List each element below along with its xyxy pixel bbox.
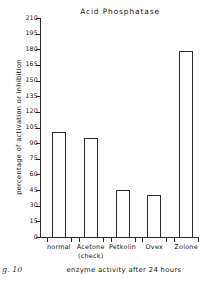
bar: [147, 195, 161, 237]
chart-title: Acid Phosphatase: [60, 7, 180, 16]
x-tick-mark: [79, 238, 80, 242]
y-tick: 75: [40, 159, 41, 160]
figure-caption: g. 10: [2, 265, 22, 274]
y-tick: 60: [40, 174, 41, 175]
bar: [84, 138, 98, 237]
x-tick-mark: [103, 238, 104, 242]
y-tick-label: 165: [25, 60, 38, 67]
y-tick-label: 75: [30, 154, 38, 161]
y-tick: 30: [40, 206, 41, 207]
y-tick-label: 45: [30, 186, 38, 193]
y-tick: 165: [40, 65, 41, 66]
y-tick: 120: [40, 112, 41, 113]
y-tick: 135: [40, 96, 41, 97]
y-tick-label: 150: [25, 76, 38, 83]
y-tick: 105: [40, 128, 41, 129]
y-tick: 210: [40, 18, 41, 19]
figure-container: Acid Phosphatase percentage of activatio…: [0, 0, 208, 283]
bar: [179, 51, 193, 237]
x-tick-mark: [142, 238, 143, 242]
y-tick: 150: [40, 81, 41, 82]
x-tick-mark: [47, 238, 48, 242]
y-tick-label: 135: [25, 92, 38, 99]
y-tick-label: 0: [34, 233, 38, 240]
y-tick-label: 120: [25, 107, 38, 114]
y-tick: 195: [40, 34, 41, 35]
x-tick-mark: [111, 238, 112, 242]
y-tick: 0: [40, 237, 41, 238]
y-tick-label: 60: [30, 170, 38, 177]
y-tick: 15: [40, 221, 41, 222]
y-tick: 90: [40, 143, 41, 144]
x-tick-mark: [166, 238, 167, 242]
x-tick-mark: [71, 238, 72, 242]
category-label: Zolone: [162, 243, 208, 251]
y-tick-label: 210: [25, 14, 38, 21]
y-tick-label: 90: [30, 139, 38, 146]
y-tick-label: 15: [30, 217, 38, 224]
x-tick-mark: [174, 238, 175, 242]
x-tick-mark: [135, 238, 136, 242]
y-axis-label: percentage of activation or inhibition: [15, 47, 23, 207]
bar: [52, 132, 66, 237]
x-axis-label: enzyme activity after 24 hours: [48, 266, 200, 274]
x-tick-mark: [198, 238, 199, 242]
plot-area: 0153045607590105120135150165180195210: [40, 18, 199, 238]
y-tick-label: 105: [25, 123, 38, 130]
y-tick-label: 195: [25, 29, 38, 36]
x-axis-line: [40, 237, 199, 238]
y-tick-label: 180: [25, 45, 38, 52]
category-sublabel: (check): [67, 252, 115, 260]
y-tick: 180: [40, 49, 41, 50]
y-tick-label: 30: [30, 201, 38, 208]
y-tick: 45: [40, 190, 41, 191]
bar: [116, 190, 130, 237]
